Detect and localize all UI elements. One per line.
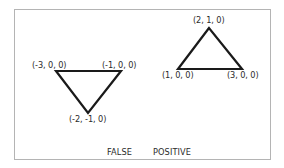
vertex-label-left-top-right: (-1, 0, 0) xyxy=(102,60,136,70)
right-triangle xyxy=(178,28,242,69)
vertex-label-right-top: (2, 1, 0) xyxy=(193,15,225,25)
caption-positive: POSITIVE xyxy=(153,147,191,157)
triangles-canvas xyxy=(0,0,284,168)
vertex-label-left-top-left: (-3, 0, 0) xyxy=(32,60,66,70)
vertex-label-left-bottom: (-2, -1, 0) xyxy=(69,114,106,124)
vertex-label-right-bottom-right: (3, 0, 0) xyxy=(227,70,259,80)
caption-false: FALSE xyxy=(107,147,132,157)
vertex-label-right-bottom-left: (1, 0, 0) xyxy=(162,70,194,80)
left-triangle xyxy=(56,71,121,113)
